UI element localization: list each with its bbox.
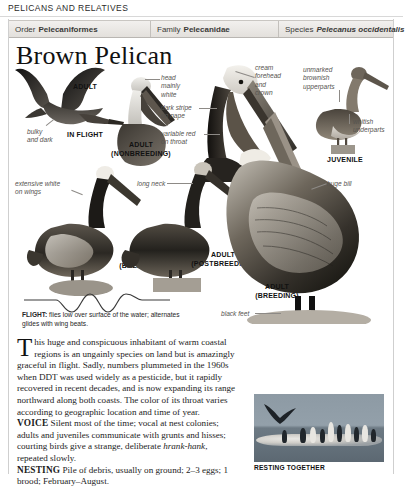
photo-caption: RESTING TOGETHER — [254, 464, 325, 471]
account-intro-text: his huge and conspicuous inhabitant of w… — [17, 337, 235, 417]
voice-call-italic: hrank-hank — [163, 441, 205, 451]
photo-pelican — [320, 429, 325, 443]
stage-label-line: ADULT — [265, 283, 289, 290]
running-head: PELICANS AND RELATIVES — [8, 3, 128, 13]
callout-unmarked-brownish-upperparts: unmarked brownish upperparts — [303, 66, 335, 91]
callout-head-mainly-white: head mainly white — [161, 74, 180, 99]
taxonomy-value-species: Pelecanus occidentalis — [316, 25, 404, 34]
pelican-postbreeding-illustration — [117, 160, 237, 292]
photo-pelican — [328, 422, 334, 442]
taxonomy-label-species: Species — [285, 25, 313, 34]
taxonomy-label-order: Order — [15, 25, 35, 34]
stage-label-line: (BREEDING) — [255, 292, 299, 299]
taxonomy-value-order: Pelecaniformes — [38, 25, 97, 34]
taxonomy-cell-order: Order Pelecaniformes — [9, 21, 151, 37]
taxonomy-label-family: Family — [157, 25, 181, 34]
callout-bulky-and-dark: bulky and dark — [27, 128, 53, 145]
leader-line-black-feet — [255, 313, 281, 314]
callout-dark-stripe-on-nape: dark stripe on nape — [161, 104, 192, 121]
illustration-plate: ADULT IN FLIGHT bulky and dark head main… — [9, 62, 393, 324]
photo-pelican — [354, 427, 359, 442]
callout-long-neck: long neck — [137, 180, 165, 188]
photo-image — [254, 394, 384, 462]
photo-pelican — [310, 427, 316, 443]
photo-pelican — [300, 428, 306, 443]
stage-label-line: IN FLIGHT — [67, 131, 103, 138]
leader-line-variable-red — [204, 134, 220, 135]
leader-line-long-neck — [167, 183, 193, 184]
photo-pelican — [282, 430, 287, 443]
drop-cap: T — [17, 337, 34, 358]
taxonomy-cell-species: Species Pelecanus occidentalis — [279, 21, 393, 37]
voice-section-label: VOICE — [17, 418, 48, 428]
nesting-section-label: NESTING — [17, 465, 60, 475]
leader-line-head-white — [145, 79, 160, 80]
photo-pelican — [371, 429, 376, 442]
stage-label-line: ADULT — [73, 83, 97, 90]
callout-cream-forehead-and-crown: cream forehead and crown — [255, 64, 281, 98]
stage-label-line: ADULT — [129, 141, 153, 148]
flight-caption: FLIGHT: flies low over surface of the wa… — [22, 311, 182, 328]
stage-label-in-flight: IN FLIGHT — [53, 130, 117, 139]
taxonomy-value-family: Pelecanidae — [184, 25, 230, 34]
account-nesting-paragraph: NESTING Pile of debris, usually on groun… — [17, 465, 239, 488]
photo-pelican — [345, 424, 351, 442]
taxonomy-cell-family: Family Pelecanidae — [151, 21, 279, 37]
leader-line-upperparts — [339, 90, 340, 102]
callout-variable-red-on-throat: variable red on throat — [161, 130, 195, 147]
stage-label-adult-in-flight: ADULT — [55, 82, 115, 91]
callout-huge-bill: huge bill — [327, 180, 352, 188]
account-intro-paragraph: This huge and conspicuous inhabitant of … — [17, 337, 239, 418]
flight-caption-label: FLIGHT: — [22, 311, 47, 318]
photo-pelican — [362, 425, 368, 442]
taxonomy-bar: Order Pelecaniformes Family Pelecanidae … — [9, 20, 393, 38]
photo-resting-together — [254, 394, 384, 462]
species-account-text: This huge and conspicuous inhabitant of … — [17, 337, 239, 488]
stage-label-line: (NONBREEDING) — [111, 150, 171, 157]
photo-flying-pelican — [262, 402, 298, 428]
account-voice-paragraph: VOICE Silent most of the time; vocal at … — [17, 418, 239, 464]
callout-extensive-white-on-wings: extensive white on wings — [15, 180, 60, 197]
stage-label-adult-breeding-main: ADULT (BREEDING) — [237, 282, 317, 300]
header-divider — [0, 16, 403, 17]
leader-line-dark-stripe — [199, 108, 217, 109]
callout-black-feet: black feet — [221, 310, 249, 318]
photo-pelican — [337, 425, 342, 442]
